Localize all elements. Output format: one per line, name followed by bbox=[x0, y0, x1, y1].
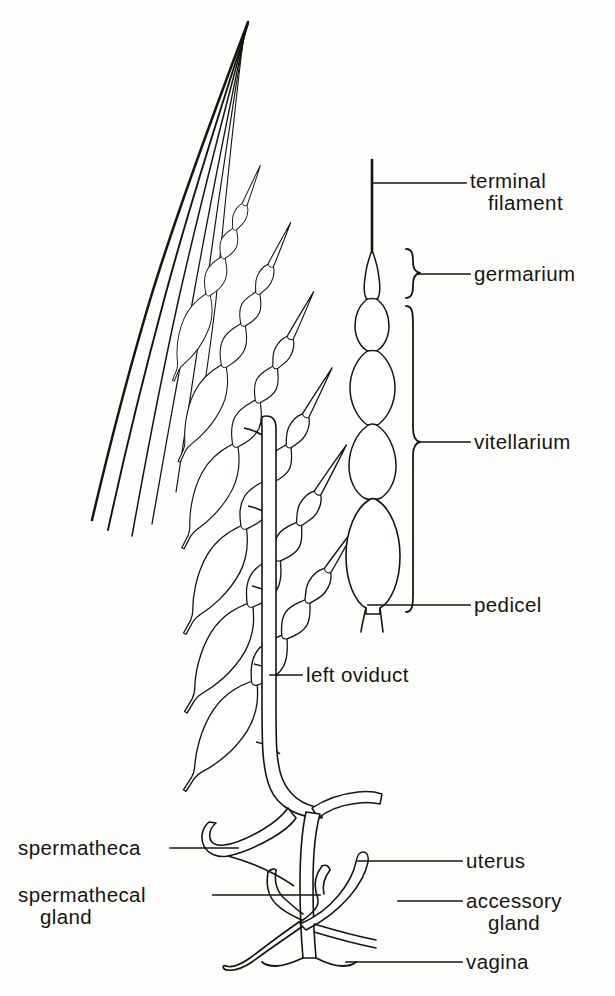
vitellarium-brace bbox=[406, 306, 420, 612]
uterus bbox=[300, 812, 320, 958]
left-ovary bbox=[92, 22, 376, 818]
label-pedicel-text: pedicel bbox=[474, 593, 542, 616]
accessory-gland-limb bbox=[314, 924, 376, 948]
label-left-oviduct: left oviduct bbox=[306, 664, 409, 686]
label-vagina-text: vagina bbox=[466, 950, 529, 973]
genital-chamber bbox=[202, 792, 382, 971]
detail-ovariole bbox=[346, 160, 400, 632]
spermathecal-duct bbox=[228, 856, 294, 886]
germarium-brace bbox=[406, 249, 420, 298]
braces bbox=[406, 249, 420, 612]
label-terminal-filament-line2: filament bbox=[470, 192, 563, 214]
label-pedicel: pedicel bbox=[474, 594, 542, 616]
vagina bbox=[262, 958, 356, 966]
label-spermathecal-gland-line2: gland bbox=[18, 906, 146, 928]
label-spermatheca-text: spermatheca bbox=[18, 836, 141, 859]
figure-canvas: terminalfilament germarium vitellarium p… bbox=[0, 0, 615, 996]
label-germarium-text: germarium bbox=[474, 262, 576, 285]
label-accessory-gland: accessorygland bbox=[466, 890, 562, 933]
label-accessory-gland-line1: accessory bbox=[466, 889, 562, 912]
label-uterus-text: uterus bbox=[466, 849, 525, 872]
label-spermathecal-gland: spermathecalgland bbox=[18, 884, 146, 927]
label-left-oviduct-text: left oviduct bbox=[306, 663, 409, 686]
label-accessory-gland-line2: gland bbox=[466, 912, 562, 934]
ovariole bbox=[161, 161, 273, 386]
label-uterus: uterus bbox=[466, 850, 525, 872]
right-oviduct bbox=[312, 792, 382, 818]
label-spermathecal-gland-line1: spermathecal bbox=[18, 883, 146, 906]
label-vitellarium-text: vitellarium bbox=[474, 430, 571, 453]
label-vagina: vagina bbox=[466, 951, 529, 973]
label-spermatheca: spermatheca bbox=[18, 837, 141, 859]
spermatheca bbox=[202, 808, 296, 857]
label-terminal-filament: terminalfilament bbox=[470, 170, 563, 213]
label-vitellarium: vitellarium bbox=[474, 431, 571, 453]
label-terminal-filament-line1: terminal bbox=[470, 169, 546, 192]
label-germarium: germarium bbox=[474, 263, 576, 285]
